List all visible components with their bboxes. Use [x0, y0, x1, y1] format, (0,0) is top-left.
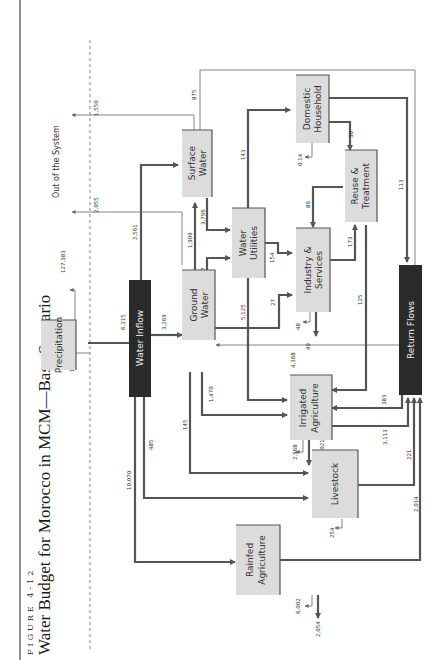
out-of-system-label: Out of the System: [52, 125, 61, 198]
flow-rainfed-loss-a: [305, 595, 312, 606]
svg-text:Utilities: Utilities: [249, 226, 259, 260]
label-domestic-loss: 0.14: [297, 153, 303, 166]
node-precipitation: Precipitation: [41, 317, 76, 373]
label-utilities-to-irrigated: 5,125: [240, 304, 246, 320]
label-industry-to-reuse: 173: [347, 236, 353, 247]
label-ground-out: 2,055: [93, 197, 99, 213]
svg-text:Reuse &: Reuse &: [350, 167, 360, 204]
node-water-utilities: Water Utilities: [232, 208, 265, 278]
label-utilities-to-industry: 154: [269, 252, 275, 263]
svg-text:Return Flows: Return Flows: [406, 301, 416, 359]
water-budget-diagram: FIGURE 4-12 Water Budget for Morocco in …: [0, 0, 436, 660]
flow-domestic-reuse: [328, 122, 350, 150]
svg-text:Domestic: Domestic: [302, 88, 312, 130]
flow-inflow-surface: [141, 165, 178, 290]
label-rainfed-loss-b: 2,054: [315, 621, 321, 637]
svg-text:Precipitation: Precipitation: [54, 317, 64, 373]
label-return-to-ground: 4,368: [290, 352, 296, 368]
svg-text:Water: Water: [200, 291, 210, 318]
node-reuse-treatment: Reuse & Treatment: [345, 150, 377, 222]
flow-return-irrigated: [332, 395, 402, 408]
node-domestic-household: Domestic Household: [296, 75, 329, 143]
label-domestic-to-reuse: 30: [348, 131, 354, 138]
figure-label: FIGURE 4-12: [26, 568, 35, 655]
flow-surface-out: [72, 115, 194, 130]
label-rainfed-to-return: 2,014: [413, 496, 419, 512]
node-ground-water: Ground Water: [182, 270, 215, 340]
node-irrigated-agriculture: Irrigated Agriculture: [290, 375, 332, 440]
flow-irrigated-return: [332, 398, 408, 426]
node-industry-services: Industry & Services: [296, 228, 330, 312]
flow-utilities-irrigated: [248, 278, 287, 400]
label-surface-to-utilities: 3,796: [200, 209, 206, 225]
flow-surface-utilities: [207, 198, 230, 230]
label-reuse-to-irrigated: 125: [357, 294, 363, 305]
flow-livestock-loss: [335, 519, 342, 528]
label-ground-to-surface: 1,909: [187, 232, 193, 248]
flow-domestic-loss: [305, 143, 312, 157]
svg-text:Livestock: Livestock: [330, 462, 340, 505]
svg-text:Agriculture: Agriculture: [257, 535, 267, 585]
svg-text:Water: Water: [198, 149, 208, 176]
flow-reuse-irrigated: [332, 225, 366, 390]
label-industry-loss-a: 48: [295, 323, 301, 330]
label-inflow-to-rainfed: 10,070: [126, 470, 132, 490]
svg-text:Household: Household: [313, 85, 323, 133]
flow-utilities-domestic: [248, 110, 290, 210]
svg-text:Irrigated: Irrigated: [298, 389, 308, 427]
svg-text:Water: Water: [238, 229, 248, 256]
label-reuse-to-industry: 89: [305, 201, 311, 208]
label-livestock-loss: 254: [329, 527, 335, 538]
node-livestock: Livestock: [312, 450, 358, 518]
label-precip-out: 127,383: [60, 250, 66, 273]
label-ground-to-industry: 27: [270, 299, 276, 306]
node-return-flows: Return Flows: [399, 265, 422, 395]
svg-text:Water Inflow: Water Inflow: [135, 310, 145, 366]
flow-utilities-industry: [265, 243, 292, 253]
svg-text:Surface: Surface: [187, 145, 197, 180]
label-surface-to-return: 875: [191, 89, 197, 100]
label-livestock-to-return: 221: [406, 450, 412, 461]
label-inflow-to-surface: 2,561: [132, 224, 138, 240]
label-return-to-irrigated: 383: [381, 394, 387, 405]
label-ground-to-irrigated: 1,470: [208, 386, 214, 402]
flow-industry-loss-a: [303, 312, 310, 322]
label-industry-loss-b: 49: [305, 343, 311, 350]
label-inflow-to-ground: 3,269: [161, 314, 167, 330]
svg-text:Agriculture: Agriculture: [310, 383, 320, 433]
svg-text:Industry &: Industry &: [303, 247, 313, 294]
svg-text:Rainfed: Rainfed: [245, 543, 255, 577]
flow-reuse-industry: [313, 187, 343, 227]
svg-text:Treatment: Treatment: [361, 163, 371, 210]
label-inflow-to-livestock: 485: [148, 439, 154, 450]
flow-ground-irrigated: [202, 372, 287, 415]
flow-ground-utilities: [207, 258, 230, 270]
label-rainfed-loss-a: 6,002: [295, 598, 301, 614]
svg-text:Ground: Ground: [189, 288, 199, 321]
flow-ground-out: [72, 212, 182, 265]
node-water-inflow: Water Inflow: [129, 280, 151, 397]
node-surface-water: Surface Water: [182, 130, 212, 197]
node-rainfed-agriculture: Rainfed Agriculture: [236, 525, 280, 595]
label-irrigated-to-return: 3,113: [382, 429, 388, 445]
flow-ground-industry: [215, 295, 292, 328]
label-surface-out: 1,550: [93, 100, 99, 116]
svg-text:Services: Services: [314, 251, 324, 289]
label-precip-to-inflow: 6,315: [120, 314, 126, 330]
label-irrigated-loss-a: 2,968: [292, 444, 298, 460]
label-utilities-to-domestic: 143: [240, 149, 246, 160]
label-domestic-to-return: 113: [398, 179, 404, 190]
flow-inflow-livestock2: [144, 397, 250, 498]
label-ground-to-livestock: 145: [182, 419, 188, 430]
